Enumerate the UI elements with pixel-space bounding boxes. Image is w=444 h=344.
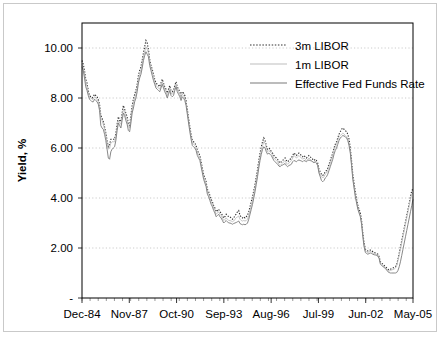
- y-axis-ticks: -2.004.006.008.0010.00: [44, 42, 82, 304]
- y-tick-label: 6.00: [51, 142, 73, 154]
- yield-line-chart: -2.004.006.008.0010.00 Dec-84Nov-87Oct-9…: [4, 4, 436, 331]
- x-tick-label: Jul-99: [303, 308, 334, 320]
- plot-area-border: [82, 23, 413, 298]
- series-line: [82, 41, 413, 271]
- chart-frame: -2.004.006.008.0010.00 Dec-84Nov-87Oct-9…: [3, 3, 437, 332]
- y-tick-label: 4.00: [51, 192, 73, 204]
- x-tick-label: Sep-93: [205, 308, 242, 320]
- legend-label: 3m LIBOR: [295, 40, 349, 52]
- y-tick-label: 10.00: [44, 42, 73, 54]
- x-tick-label: Aug-96: [253, 308, 290, 320]
- y-tick-label: 8.00: [51, 92, 73, 104]
- y-tick-label: -: [69, 292, 73, 304]
- x-axis-ticks: Dec-84Nov-87Oct-90Sep-93Aug-96Jul-99Jun-…: [63, 298, 432, 320]
- legend-label: 1m LIBOR: [295, 59, 349, 71]
- x-tick-label: Dec-84: [63, 308, 101, 320]
- x-tick-label: Jun-02: [348, 308, 383, 320]
- y-tick-label: 2.00: [51, 242, 73, 254]
- data-series: [82, 41, 413, 274]
- x-tick-label: Oct-90: [159, 308, 194, 320]
- y-axis-title: Yield, %: [16, 139, 28, 183]
- legend-label: Effective Fed Funds Rate: [295, 78, 425, 90]
- x-tick-label: May-05: [394, 308, 432, 320]
- x-tick-label: Nov-87: [111, 308, 148, 320]
- chart-legend: 3m LIBOR1m LIBOREffective Fed Funds Rate: [250, 40, 425, 90]
